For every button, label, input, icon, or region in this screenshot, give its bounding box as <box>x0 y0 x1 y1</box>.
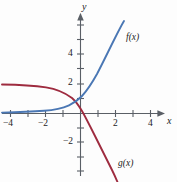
y-tick-label-2: 2 <box>68 78 73 88</box>
y-axis-label: y <box>82 2 86 12</box>
curve-g <box>2 85 118 183</box>
graph-figure: −4 −2 2 4 4 2 −2 x y f(x) g(x) <box>0 0 177 182</box>
x-tick-label-4: 4 <box>148 119 153 129</box>
curve-f <box>2 21 124 113</box>
x-axis-label: x <box>167 116 171 126</box>
x-tick-label-neg2: −2 <box>38 119 48 129</box>
y-tick-label-neg2: −2 <box>63 137 73 147</box>
plot-canvas <box>0 0 177 182</box>
x-tick-label-neg4: −4 <box>3 119 13 129</box>
x-tick-label-2: 2 <box>113 119 118 129</box>
curve-label-g: g(x) <box>118 159 133 169</box>
y-tick-label-4: 4 <box>68 49 73 59</box>
curve-label-f: f(x) <box>126 33 139 43</box>
